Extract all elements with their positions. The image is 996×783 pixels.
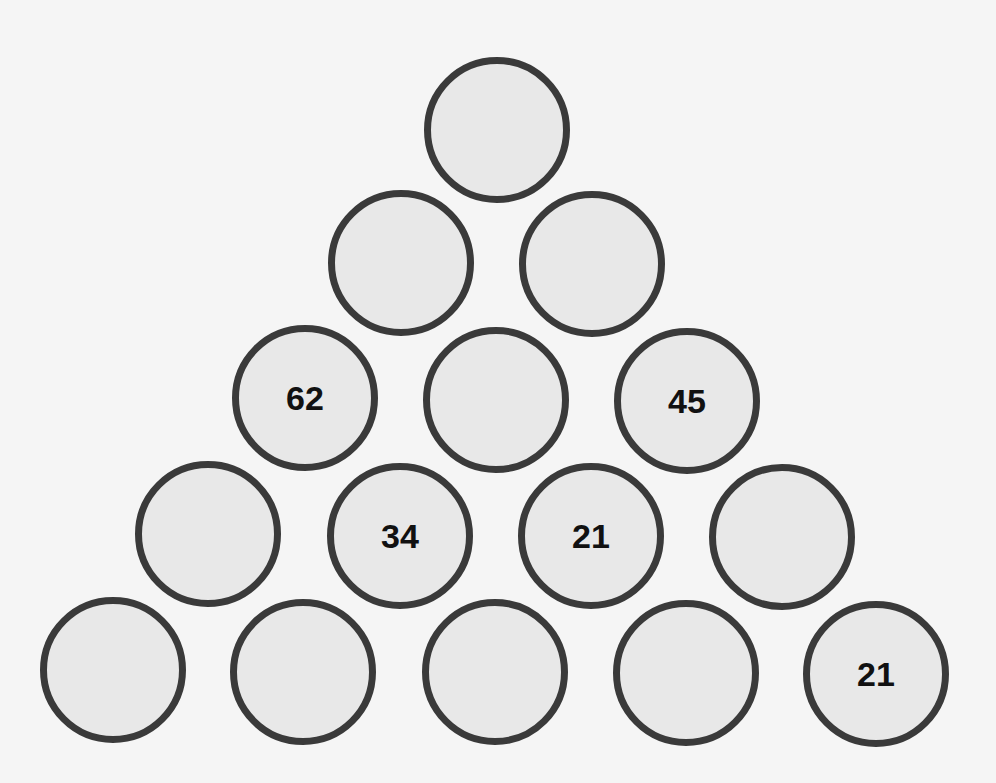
- cell-r1-c1[interactable]: [424, 57, 570, 203]
- cell-r4-c1[interactable]: [135, 461, 281, 607]
- cell-r4-c2[interactable]: 34: [327, 463, 473, 609]
- cell-value: 34: [381, 519, 419, 553]
- cell-r3-c1[interactable]: 62: [232, 325, 378, 471]
- number-pyramid: 62 45 34 21 21: [0, 0, 996, 783]
- cell-r3-c2[interactable]: [423, 327, 569, 473]
- cell-r5-c5[interactable]: 21: [803, 601, 949, 747]
- cell-r5-c3[interactable]: [422, 599, 568, 745]
- cell-r4-c3[interactable]: 21: [518, 463, 664, 609]
- cell-r5-c2[interactable]: [230, 599, 376, 745]
- cell-r5-c1[interactable]: [40, 597, 186, 743]
- cell-value: 21: [572, 519, 610, 553]
- cell-r5-c4[interactable]: [613, 600, 759, 746]
- cell-r2-c2[interactable]: [519, 191, 665, 337]
- cell-value: 62: [286, 381, 324, 415]
- cell-r2-c1[interactable]: [328, 190, 474, 336]
- cell-value: 45: [668, 384, 706, 418]
- cell-value: 21: [857, 657, 895, 691]
- cell-r3-c3[interactable]: 45: [614, 328, 760, 474]
- cell-r4-c4[interactable]: [709, 464, 855, 610]
